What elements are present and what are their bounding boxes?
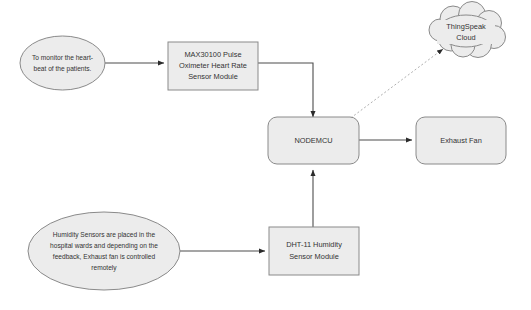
humidity-note-ellipse (28, 212, 180, 290)
humidity-note-line-3: feedback, Exhaust fan is controlled (53, 253, 156, 260)
humidity-note-line-2: hospital wards and depending on the (50, 242, 158, 250)
max30100-line-1: MAX30100 Pulse (184, 50, 241, 59)
heartbeat-note-line-1: To monitor the heart- (32, 54, 93, 61)
dht11-line-2: Sensor Module (289, 252, 339, 261)
nodemcu-label: NODEMCU (294, 136, 332, 145)
max30100-line-3: Sensor Module (188, 72, 238, 81)
node-thingspeak-cloud[interactable]: ThingSpeak Cloud (429, 2, 506, 58)
node-humidity-note[interactable]: Humidity Sensors are placed in the hospi… (28, 212, 180, 290)
humidity-note-line-4: remotely (91, 264, 117, 272)
node-max30100-sensor[interactable]: MAX30100 Pulse Oximeter Heart Rate Senso… (168, 42, 258, 90)
system-block-diagram: To monitor the heart- beat of the patien… (0, 0, 531, 310)
node-heartbeat-note[interactable]: To monitor the heart- beat of the patien… (20, 36, 105, 90)
node-dht11-sensor[interactable]: DHT-11 Humidity Sensor Module (269, 227, 359, 275)
node-nodemcu[interactable]: NODEMCU (268, 117, 359, 164)
heartbeat-note-line-2: beat of the patients. (34, 65, 92, 73)
dht11-line-1: DHT-11 Humidity (286, 240, 342, 249)
heartbeat-note-ellipse (20, 36, 105, 90)
thingspeak-cloud-line-1: ThingSpeak (446, 22, 486, 31)
max30100-line-2: Oximeter Heart Rate (179, 61, 247, 70)
edge-nodemcu-to-cloud (344, 49, 443, 123)
edge-max30100-to-nodemcu (258, 63, 313, 117)
exhaust-fan-label: Exhaust Fan (440, 136, 482, 145)
node-exhaust-fan[interactable]: Exhaust Fan (416, 117, 506, 164)
humidity-note-line-1: Humidity Sensors are placed in the (53, 231, 156, 239)
thingspeak-cloud-line-2: Cloud (456, 33, 475, 42)
